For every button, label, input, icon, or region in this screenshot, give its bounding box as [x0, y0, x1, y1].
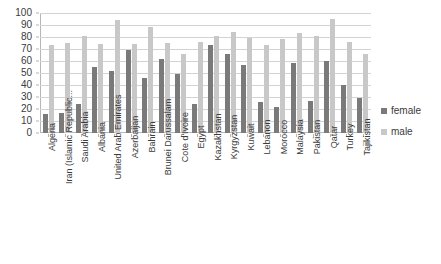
y-axis-tick-mark	[36, 61, 39, 62]
x-axis-label-cell: United Arab Emirates	[106, 134, 123, 238]
x-axis-label-cell: Algeria	[40, 134, 57, 238]
bar-group	[288, 13, 305, 133]
bar-male	[49, 45, 54, 133]
x-axis-label-cell: Malaysia	[288, 134, 305, 238]
x-axis-label-cell: Pakistan	[305, 134, 322, 238]
x-axis-label-cell: Lebanon	[255, 134, 272, 238]
bar-group	[189, 13, 206, 133]
legend-swatch-male	[381, 129, 387, 135]
bar-male	[148, 27, 153, 133]
y-axis: 1009080706050403020100	[0, 13, 36, 133]
legend-item-male[interactable]: male	[381, 127, 439, 137]
legend-swatch-female	[381, 108, 387, 114]
bar-female	[324, 61, 329, 133]
y-axis-tick-mark	[36, 13, 39, 14]
y-axis-tick-mark	[36, 133, 39, 134]
bar-male	[98, 44, 103, 133]
x-axis-label-cell: Kyrgyzstan	[222, 134, 239, 238]
x-axis-label-cell: Cote d'Ivoire	[172, 134, 189, 238]
y-axis-tick-label: 0	[26, 128, 32, 138]
y-axis-tick-label: 30	[21, 92, 32, 102]
y-axis-tick-mark	[36, 97, 39, 98]
y-axis-tick-label: 90	[21, 20, 32, 30]
x-axis-label-cell: Qatar	[321, 134, 338, 238]
x-axis-label-cell: Turkey	[338, 134, 355, 238]
bar-group	[272, 13, 289, 133]
bar-group	[139, 13, 156, 133]
bar-group	[40, 13, 57, 133]
x-axis-label-cell: Azerbaijan	[123, 134, 140, 238]
y-axis-tick-label: 60	[21, 56, 32, 66]
bar-chart: 1009080706050403020100 AlgeriaIran (Isla…	[0, 0, 441, 264]
y-axis-tick-mark	[36, 37, 39, 38]
bar-group	[255, 13, 272, 133]
x-axis-labels: AlgeriaIran (Islamic Republic...Saudi Ar…	[40, 134, 371, 238]
y-axis-tick-mark	[36, 73, 39, 74]
y-axis-tick-mark	[36, 85, 39, 86]
bar-male	[297, 33, 302, 133]
y-axis-tick-label: 50	[21, 68, 32, 78]
bar-group	[90, 13, 107, 133]
x-axis-label-cell: Saudi Arabia	[73, 134, 90, 238]
chart-legend: femalemale	[381, 106, 439, 148]
y-axis-tick-mark	[36, 121, 39, 122]
x-axis-label-cell: Bahrain	[139, 134, 156, 238]
y-axis-tick-label: 80	[21, 32, 32, 42]
y-axis-tick-label: 20	[21, 104, 32, 114]
bar-group	[338, 13, 355, 133]
x-axis-label-cell: Kuwait	[239, 134, 256, 238]
bar-male	[314, 36, 319, 133]
y-axis-tick-mark	[36, 25, 39, 26]
bar-male	[330, 19, 335, 133]
bar-group	[239, 13, 256, 133]
legend-item-female[interactable]: female	[381, 106, 439, 116]
x-axis-label-cell: Morocco	[272, 134, 289, 238]
x-axis-label-cell: Iran (Islamic Republic...	[57, 134, 74, 238]
bar-group	[305, 13, 322, 133]
x-axis-label-cell: Albania	[90, 134, 107, 238]
legend-label-male: male	[391, 127, 413, 137]
y-axis-tick-mark	[36, 109, 39, 110]
legend-label-female: female	[391, 106, 421, 116]
bar-male	[347, 42, 352, 133]
x-axis-label-cell: Tajikistan	[354, 134, 371, 238]
y-axis-tick-label: 100	[15, 8, 32, 18]
bar-group	[354, 13, 371, 133]
x-axis-label-cell: Kazakhstan	[205, 134, 222, 238]
y-axis-tick-label: 10	[21, 116, 32, 126]
bar-male	[198, 42, 203, 133]
y-axis-tick-label: 70	[21, 44, 32, 54]
bar-group	[321, 13, 338, 133]
y-axis-tick-label: 40	[21, 80, 32, 90]
x-axis-label-cell: Brunei Darussalam	[156, 134, 173, 238]
x-axis-tick-label: Tajikistan	[363, 118, 372, 155]
x-axis-label-cell: Egypt	[189, 134, 206, 238]
bar-male	[247, 38, 252, 133]
y-axis-tick-mark	[36, 49, 39, 50]
